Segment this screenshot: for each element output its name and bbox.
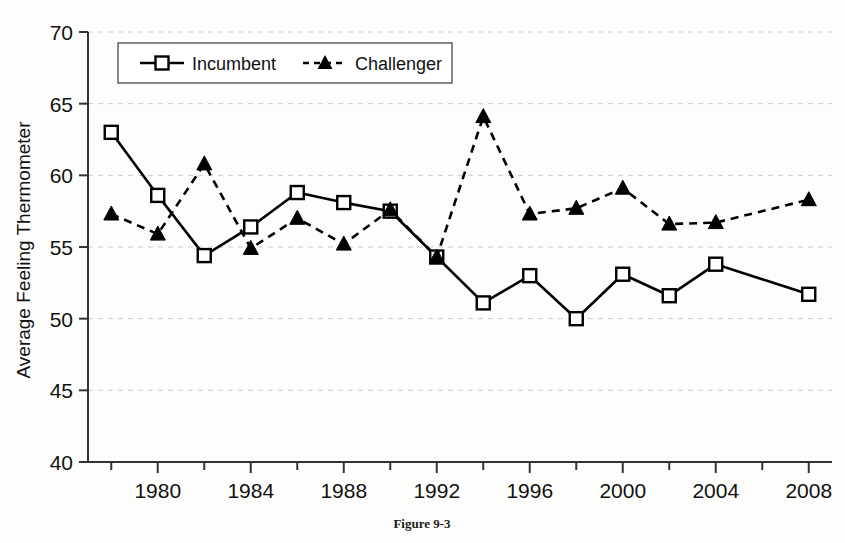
marker-open-square xyxy=(523,269,536,282)
y-axis-ticks: 40455055606570 xyxy=(50,21,88,474)
legend-marker-open-square xyxy=(156,57,169,70)
marker-filled-triangle xyxy=(522,206,537,220)
marker-filled-triangle xyxy=(243,240,258,254)
y-tick-label: 45 xyxy=(50,379,73,402)
data-series xyxy=(104,109,817,326)
series-line-incumbent xyxy=(111,132,809,318)
marker-open-square xyxy=(151,189,164,202)
x-tick-label: 1988 xyxy=(320,479,367,502)
x-tick-label: 1984 xyxy=(227,479,274,502)
marker-open-square xyxy=(477,296,490,309)
figure-caption: Figure 9-3 xyxy=(393,516,451,531)
x-tick-label: 1992 xyxy=(413,479,460,502)
marker-open-square xyxy=(802,288,815,301)
x-tick-label: 1996 xyxy=(506,479,553,502)
x-axis-ticks: 19801984198819921996200020042008 xyxy=(111,462,832,502)
y-tick-label: 55 xyxy=(50,236,73,259)
marker-filled-triangle xyxy=(615,180,630,194)
x-tick-label: 1980 xyxy=(134,479,181,502)
x-tick-label: 2004 xyxy=(692,479,739,502)
legend-label-challenger: Challenger xyxy=(355,54,442,74)
y-tick-label: 65 xyxy=(50,93,73,116)
figure-container: 40455055606570 1980198419881992199620002… xyxy=(0,0,845,543)
marker-open-square xyxy=(663,289,676,302)
marker-filled-triangle xyxy=(476,109,491,123)
chart-legend: IncumbentChallenger xyxy=(118,43,452,83)
x-tick-label: 2000 xyxy=(599,479,646,502)
marker-open-square xyxy=(291,186,304,199)
y-tick-label: 50 xyxy=(50,308,73,331)
x-tick-label: 2008 xyxy=(785,479,832,502)
marker-open-square xyxy=(709,258,722,271)
marker-filled-triangle xyxy=(801,192,816,206)
marker-filled-triangle xyxy=(662,216,677,230)
marker-open-square xyxy=(337,196,350,209)
legend-label-incumbent: Incumbent xyxy=(192,54,276,74)
y-axis-title: Average Feeling Thermometer xyxy=(13,121,34,379)
series-line-challenger xyxy=(111,117,809,257)
marker-filled-triangle xyxy=(290,210,305,224)
y-tick-label: 60 xyxy=(50,164,73,187)
y-tick-label: 70 xyxy=(50,21,73,44)
y-tick-label: 40 xyxy=(50,451,73,474)
marker-open-square xyxy=(198,249,211,262)
feeling-thermometer-chart: 40455055606570 1980198419881992199620002… xyxy=(0,0,845,543)
marker-open-square xyxy=(244,220,257,233)
marker-open-square xyxy=(616,268,629,281)
marker-filled-triangle xyxy=(336,236,351,250)
marker-open-square xyxy=(105,126,118,139)
marker-open-square xyxy=(570,312,583,325)
marker-filled-triangle xyxy=(104,206,119,220)
marker-filled-triangle xyxy=(197,156,212,170)
gridlines xyxy=(88,32,832,390)
